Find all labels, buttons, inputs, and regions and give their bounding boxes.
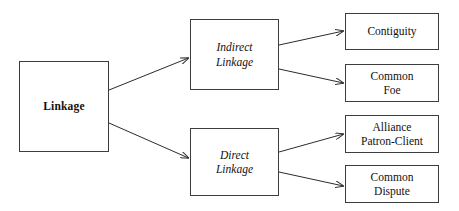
edge-indirect-to-contiguity (279, 31, 344, 45)
node-direct-linkage[interactable]: Direct Linkage (190, 128, 279, 196)
edge-direct-to-alliance (279, 134, 344, 152)
edge-linkage-to-indirect (109, 58, 189, 90)
node-common-dispute[interactable]: Common Dispute (345, 165, 439, 203)
linkage-diagram: Linkage Indirect Linkage Direct Linkage … (0, 0, 459, 211)
node-linkage-label: Linkage (20, 99, 108, 113)
node-direct-linkage-label: Direct Linkage (191, 148, 278, 176)
node-common-foe-label: Common Foe (346, 69, 438, 97)
node-alliance-patron-client[interactable]: Alliance Patron-Client (345, 115, 439, 153)
node-contiguity[interactable]: Contiguity (345, 13, 439, 50)
edge-direct-to-common-dispute (279, 172, 344, 186)
node-indirect-linkage[interactable]: Indirect Linkage (190, 19, 279, 90)
edge-linkage-to-direct (109, 123, 189, 158)
node-alliance-patron-client-label: Alliance Patron-Client (346, 120, 438, 148)
edge-indirect-to-common-foe (279, 69, 344, 83)
node-contiguity-label: Contiguity (346, 24, 438, 38)
node-common-dispute-label: Common Dispute (346, 170, 438, 198)
node-common-foe[interactable]: Common Foe (345, 64, 439, 102)
node-indirect-linkage-label: Indirect Linkage (191, 40, 278, 68)
node-linkage[interactable]: Linkage (19, 61, 109, 152)
